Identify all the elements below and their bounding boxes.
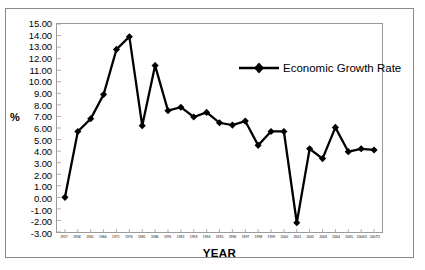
y-tick-label: -1.00	[31, 204, 52, 215]
x-tick-label: 1986	[151, 235, 159, 239]
y-tick-label: 4.00	[34, 146, 52, 157]
y-tick-label: 6.00	[34, 123, 52, 134]
x-tick-label: 2004	[332, 235, 340, 239]
data-point-marker	[61, 194, 68, 201]
series-canvas	[57, 24, 382, 232]
x-tick-label: 2005	[345, 235, 353, 239]
data-point-marker	[152, 62, 159, 69]
plot-area	[56, 23, 383, 233]
x-tick-label: 1997	[242, 235, 250, 239]
y-tick-label: 0.00	[34, 193, 52, 204]
x-tick-label: 1993	[190, 235, 198, 239]
y-axis-tick-labels: 15.0014.0013.0012.0011.0010.009.008.007.…	[6, 17, 56, 239]
x-tick-label: 1958	[73, 235, 81, 239]
chart-legend: Economic Growth Rate	[238, 61, 401, 75]
x-tick-label: 1995	[216, 235, 224, 239]
data-point-marker	[358, 145, 365, 152]
x-tick-label: 1981	[138, 235, 146, 239]
y-tick-label: -3.00	[31, 228, 52, 239]
y-tick-label: 13.00	[29, 41, 52, 52]
y-tick-label: 3.00	[34, 158, 52, 169]
data-point-marker	[229, 122, 236, 129]
x-tick-label: 1996	[229, 235, 237, 239]
data-point-marker	[164, 107, 171, 114]
y-tick-label: 10.00	[29, 76, 52, 87]
x-tick-label: 1992	[177, 235, 185, 239]
x-tick-label: 1961	[86, 235, 94, 239]
y-tick-label: 8.00	[34, 99, 52, 110]
x-tick-label: 1991	[164, 235, 172, 239]
y-tick-label: 11.00	[29, 64, 52, 75]
data-point-marker	[370, 146, 377, 153]
y-tick-label: 14.00	[29, 29, 52, 40]
data-point-marker	[293, 219, 300, 226]
x-tick-label: 1998	[255, 235, 263, 239]
y-tick-label: 15.00	[29, 18, 52, 29]
chart-frame: % 15.0014.0013.0012.0011.0010.009.008.00…	[5, 8, 414, 258]
x-tick-label: 2001	[293, 235, 301, 239]
y-tick-label: 7.00	[34, 111, 52, 122]
x-tick-label: 1957	[60, 235, 68, 239]
x-tick-label: 1971	[112, 235, 120, 239]
legend-label: Economic Growth Rate	[283, 62, 401, 74]
x-tick-label: 1966	[99, 235, 107, 239]
x-tick-label: 2006/1	[357, 235, 367, 239]
x-tick-label: 2007/1	[370, 235, 380, 239]
legend-marker-icon	[238, 61, 280, 75]
x-axis-tick-labels: 1957195819611966197119761981198619911992…	[56, 235, 383, 247]
y-tick-label: 5.00	[34, 134, 52, 145]
data-point-marker	[280, 128, 287, 135]
x-tick-label: 2002	[306, 235, 314, 239]
x-tick-label: 1976	[125, 235, 133, 239]
x-tick-label: 1999	[268, 235, 276, 239]
y-tick-label: 12.00	[29, 53, 52, 64]
y-tick-label: 1.00	[34, 181, 52, 192]
data-point-marker	[139, 122, 146, 129]
x-tick-label: 2003	[319, 235, 327, 239]
x-tick-label: 2000	[281, 235, 289, 239]
y-tick-label: 2.00	[34, 169, 52, 180]
y-tick-label: -2.00	[31, 216, 52, 227]
x-axis-title: YEAR	[56, 247, 383, 259]
x-tick-label: 1994	[203, 235, 211, 239]
y-tick-label: 9.00	[34, 88, 52, 99]
